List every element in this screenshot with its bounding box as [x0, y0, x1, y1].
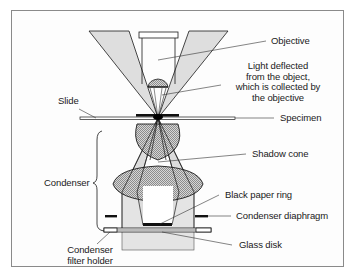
label-specimen: Specimen — [280, 113, 321, 124]
label-light-deflected: Light deflected from the object, which i… — [218, 61, 338, 103]
label-shadow-cone: Shadow cone — [252, 149, 308, 160]
label-condenser: Condenser — [44, 178, 90, 189]
label-slide: Slide — [58, 96, 79, 107]
objective — [139, 32, 178, 118]
label-light-deflected-line4: the objective — [218, 93, 338, 104]
label-filter-holder-line2: filter holder — [50, 256, 130, 267]
glass-disk-filter-holder — [104, 228, 211, 232]
label-light-deflected-line3: which is collected by — [218, 82, 338, 93]
deflected-light-wedges — [89, 31, 228, 118]
label-condenser-diaphragm: Condenser diaphragm — [236, 211, 328, 222]
condenser-brace — [93, 131, 104, 231]
black-paper-ring — [143, 223, 172, 226]
label-condenser-filter-holder: Condenser filter holder — [50, 245, 130, 266]
label-black-paper-ring: Black paper ring — [225, 190, 292, 201]
label-filter-holder-line1: Condenser — [50, 245, 130, 256]
label-objective: Objective — [271, 36, 310, 47]
label-light-deflected-line1: Light deflected — [218, 61, 338, 72]
label-glass-disk: Glass disk — [239, 240, 282, 251]
